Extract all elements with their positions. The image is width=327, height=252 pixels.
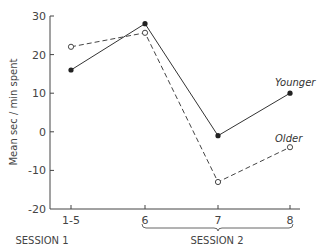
- session2-label: SESSION 2: [190, 235, 243, 246]
- y-tick-label: -20: [28, 203, 46, 216]
- series-label-older: Older: [275, 133, 303, 144]
- x-tick-label: 8: [287, 214, 294, 227]
- series-younger-markers: [68, 21, 292, 138]
- y-tick-label: -10: [28, 164, 46, 177]
- y-tick-labels: 30 20 10 0 -10 -20: [28, 10, 46, 216]
- session1-label: SESSION 1: [15, 235, 68, 246]
- y-tick-label: 0: [39, 126, 46, 139]
- x-tick-label: 1-5: [62, 214, 80, 227]
- y-tick-label: 30: [32, 10, 46, 23]
- series-older-markers: [68, 30, 292, 184]
- series-label-younger: Younger: [275, 77, 316, 88]
- x-ticks: [71, 205, 290, 209]
- y-tick-label: 10: [32, 87, 46, 100]
- x-tick-labels: 1-5 6 7 8: [62, 214, 293, 227]
- y-ticks: [50, 16, 54, 170]
- y-tick-label: 20: [32, 49, 46, 62]
- x-tick-label: 7: [215, 214, 222, 227]
- line-chart: 30 20 10 0 -10 -20 Mean sec / min spent …: [0, 0, 327, 252]
- x-tick-label: 6: [142, 214, 149, 227]
- y-axis-title: Mean sec / min spent: [8, 58, 19, 165]
- series-older-line: [71, 33, 290, 182]
